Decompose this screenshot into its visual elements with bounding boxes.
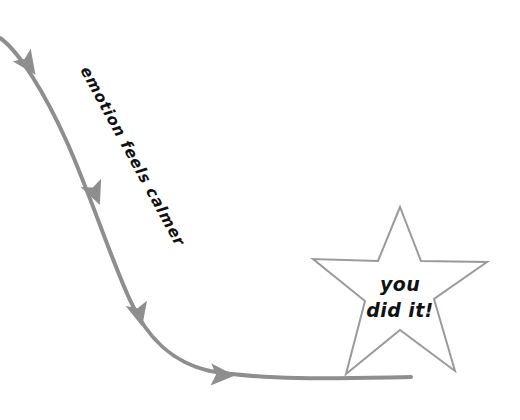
flow-arrow-line <box>0 38 411 378</box>
flow-label-group: emotion feels calmer <box>76 63 188 250</box>
arrowhead-4 <box>211 364 236 387</box>
star-label-line1: you <box>380 273 420 295</box>
flow-label-text: emotion feels calmer <box>76 63 188 250</box>
emotion-flow-diagram: emotion feels calmer you did it! <box>0 0 520 420</box>
star-label-line2: did it! <box>366 299 433 321</box>
diagram-canvas: emotion feels calmer you did it! <box>0 0 520 420</box>
arrowhead-3 <box>126 301 153 330</box>
